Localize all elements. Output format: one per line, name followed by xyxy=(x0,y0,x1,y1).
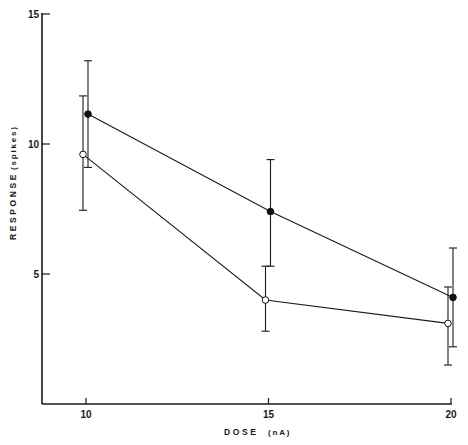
y-tick-label: 5 xyxy=(33,269,39,280)
data-point xyxy=(445,320,452,327)
data-point xyxy=(80,151,87,158)
x-tick-label: 15 xyxy=(263,409,275,420)
data-point xyxy=(450,294,457,301)
x-tick-label: 20 xyxy=(445,409,457,420)
x-tick-label: 10 xyxy=(80,409,92,420)
data-point xyxy=(267,208,274,215)
data-point xyxy=(262,297,269,304)
y-axis-unit: (spikes) xyxy=(9,125,18,170)
x-axis-unit: (nA) xyxy=(268,428,291,437)
y-tick-label: 10 xyxy=(28,139,40,150)
y-tick-label: 15 xyxy=(28,9,40,20)
axes xyxy=(42,13,452,404)
y-axis-label: RESPONSE xyxy=(8,172,18,240)
series-layer xyxy=(79,61,457,365)
series-filled-circles xyxy=(84,61,457,347)
x-ticks: 101520 xyxy=(80,398,457,420)
y-ticks: 51015 xyxy=(28,9,50,280)
x-axis-label: DOSE xyxy=(224,427,259,437)
chart: 51015 101520 RESPONSE (spikes) DOSE (nA) xyxy=(0,0,468,445)
data-point xyxy=(85,111,92,118)
series-open-circles xyxy=(79,96,452,365)
